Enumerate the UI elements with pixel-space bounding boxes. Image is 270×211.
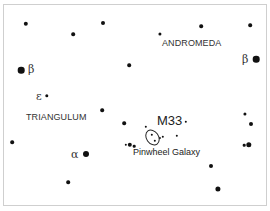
star-icon <box>18 67 25 74</box>
pinwheel-galaxy-label: Pinwheel Galaxy <box>133 148 200 157</box>
star-icon <box>83 151 89 157</box>
star-icon <box>10 140 14 144</box>
star-icon <box>127 63 131 67</box>
chart-frame <box>3 4 267 206</box>
star-icon <box>100 108 104 112</box>
star-chart: ANDROMEDA TRIANGULUM β β ε α M33 Pinwhee… <box>0 0 270 211</box>
label-beta-andromedae: β <box>242 54 248 65</box>
star-icon <box>71 32 75 36</box>
constellation-label-triangulum: TRIANGULUM <box>26 113 87 122</box>
star-icon <box>248 23 252 27</box>
constellation-label-andromeda: ANDROMEDA <box>162 39 221 48</box>
star-icon <box>249 122 253 126</box>
star-icon <box>66 180 70 184</box>
star-icon <box>101 21 105 25</box>
label-epsilon-trianguli: ε <box>36 91 42 102</box>
m33-label: M33 <box>157 114 182 127</box>
star-icon <box>199 24 203 28</box>
star-icon <box>209 164 213 168</box>
star-icon <box>122 121 126 125</box>
label-alpha-trianguli: α <box>71 149 78 160</box>
star-icon <box>243 144 246 147</box>
star-icon <box>253 56 260 63</box>
label-beta-trianguli: β <box>28 64 34 75</box>
